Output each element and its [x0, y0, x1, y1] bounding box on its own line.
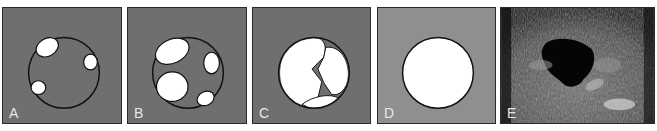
panel-c: C: [252, 7, 371, 124]
panel-b-diagram: [128, 8, 246, 123]
panel-d-diagram: [378, 8, 495, 123]
panel-a-diagram: [3, 8, 121, 123]
panel-e-ultrasound: E: [500, 7, 655, 124]
panel-c-diagram: [253, 8, 370, 123]
panel-b: B: [127, 7, 247, 124]
ultrasound-image: [501, 8, 654, 123]
panel-a: A: [2, 7, 122, 124]
panel-label: C: [259, 106, 269, 120]
panel-label: E: [507, 106, 516, 120]
panel-label: D: [384, 106, 394, 120]
panel-label: A: [9, 106, 18, 120]
panel-label: B: [134, 106, 143, 120]
panel-d: D: [377, 7, 496, 124]
